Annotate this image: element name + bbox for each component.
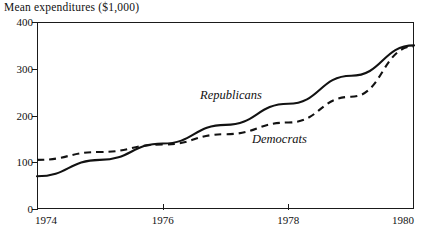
y-tick-label: 400 [17, 17, 34, 28]
x-tick-label: 1974 [35, 215, 57, 226]
y-axis-title: Mean expenditures ($1,000) [4, 1, 139, 14]
series-line-republicans [37, 45, 414, 176]
plot-area: 0100200300400 1974197619781980 [37, 22, 414, 209]
series-label-democrats: Democrats [252, 133, 307, 146]
expenditures-line-chart: Mean expenditures ($1,000) 0100200300400… [0, 0, 428, 241]
x-tick-label: 1976 [152, 215, 174, 226]
y-tick-label: 300 [17, 64, 34, 75]
x-tick-label: 1980 [392, 215, 414, 226]
y-tick-label: 0 [28, 204, 34, 215]
series-plot [37, 22, 414, 209]
y-tick-label: 100 [17, 157, 34, 168]
series-label-republicans: Republicans [200, 89, 262, 102]
y-tick-label: 200 [17, 111, 34, 122]
series-line-democrats [37, 46, 414, 160]
x-tick-label: 1978 [277, 215, 299, 226]
